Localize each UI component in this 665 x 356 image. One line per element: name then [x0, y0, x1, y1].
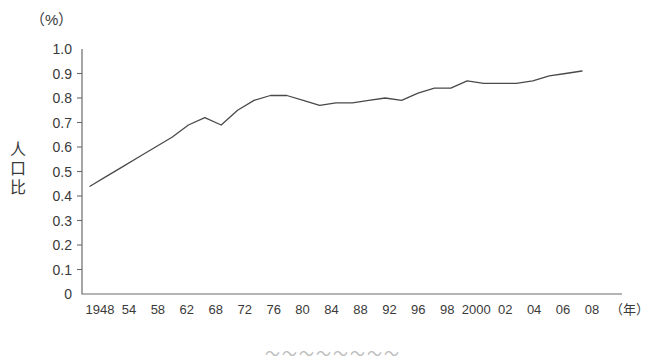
- data-series-line: [90, 71, 582, 186]
- chart-axes: [82, 49, 622, 294]
- chart-plot-area: [0, 0, 665, 356]
- cut-off-caption: 〜〜〜〜〜〜〜〜: [0, 346, 665, 356]
- y-axis-ticks: [77, 74, 82, 270]
- chart-container: （%） 人 口 比 1.00.90.80.70.60.50.40.30.20.1…: [0, 0, 665, 356]
